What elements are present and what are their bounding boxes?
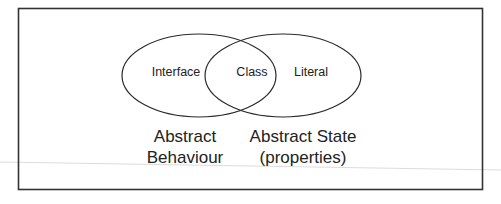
- interface-label: Interface: [152, 65, 201, 79]
- literal-ellipse: [205, 34, 361, 117]
- literal-label: Literal: [294, 65, 328, 79]
- abstract-behaviour-caption-line1: Abstract: [154, 127, 217, 146]
- venn-diagram: Interface Class Literal Abstract Behavio…: [0, 0, 501, 204]
- abstract-state-caption-line2: (properties): [260, 148, 347, 167]
- frame-border: [19, 9, 483, 190]
- class-label: Class: [236, 65, 267, 79]
- abstract-behaviour-caption-line2: Behaviour: [147, 148, 224, 167]
- abstract-state-caption-line1: Abstract State: [250, 127, 357, 146]
- scan-artifact-line: [0, 162, 501, 170]
